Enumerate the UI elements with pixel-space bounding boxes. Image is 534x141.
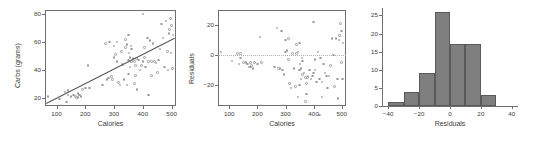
y-tick-label: 20 <box>19 94 41 101</box>
histogram-bar <box>419 73 434 106</box>
x-tick-label: −40 <box>374 110 402 117</box>
data-point <box>150 74 153 77</box>
data-point <box>340 61 343 64</box>
data-point <box>293 67 296 70</box>
data-point <box>339 22 342 25</box>
y-tick-label: 15 <box>358 48 378 55</box>
residual-histogram-panel: −40−20020400510152025 Residuals <box>350 0 534 141</box>
residuals-vs-calories-panel: 100200300400500−20020 Calories Residuals <box>178 0 350 141</box>
x-tick-label: 100 <box>215 110 243 117</box>
data-point <box>124 38 127 41</box>
data-point <box>160 23 163 26</box>
data-point <box>168 28 171 31</box>
data-point <box>333 85 336 88</box>
histogram-x-axis-title: Residuals <box>425 120 475 127</box>
histogram-bar <box>465 44 480 106</box>
y-tick-label: 5 <box>358 84 378 91</box>
y-tick-label: −20 <box>192 81 214 88</box>
data-point <box>332 54 335 57</box>
data-point <box>171 67 174 70</box>
y-tick-label: 0 <box>192 51 214 58</box>
x-tick-label: 200 <box>243 110 271 117</box>
data-point <box>169 17 172 20</box>
data-point <box>129 56 132 59</box>
data-point <box>65 101 68 104</box>
data-point <box>305 82 308 85</box>
data-point <box>114 53 117 56</box>
data-point <box>168 32 171 35</box>
y-tick <box>215 85 218 86</box>
data-point <box>260 61 263 64</box>
data-point <box>140 64 143 67</box>
x-tick-label: 100 <box>43 110 71 117</box>
data-point <box>124 46 127 49</box>
y-tick <box>379 70 382 71</box>
histogram-y-axis <box>382 8 383 106</box>
y-tick <box>42 70 45 71</box>
y-tick-label: 60 <box>19 38 41 45</box>
data-point <box>143 46 146 49</box>
data-point <box>273 66 276 69</box>
histogram-bar <box>450 44 465 106</box>
x-tick <box>257 106 258 109</box>
data-point <box>152 42 155 45</box>
data-point <box>239 57 242 60</box>
x-tick-label: 300 <box>100 110 128 117</box>
data-point <box>331 37 334 40</box>
data-point <box>111 78 114 81</box>
x-tick <box>419 106 420 109</box>
x-tick <box>450 106 451 109</box>
data-point <box>280 30 283 33</box>
y-tick <box>379 15 382 16</box>
x-tick-label: 40 <box>498 110 526 117</box>
y-tick-label: 40 <box>19 66 41 73</box>
x-tick <box>512 106 513 109</box>
x-tick <box>314 106 315 109</box>
data-point <box>329 64 332 67</box>
data-point <box>308 69 311 72</box>
x-tick <box>229 106 230 109</box>
data-point <box>287 37 290 40</box>
y-tick <box>379 106 382 107</box>
data-point <box>170 24 173 27</box>
data-point <box>134 74 137 77</box>
data-point <box>142 60 145 63</box>
data-point <box>318 78 321 81</box>
data-point <box>291 52 294 55</box>
x-tick-label: 400 <box>129 110 157 117</box>
residual-x-axis-title: Calories <box>260 120 304 127</box>
data-point <box>239 52 242 55</box>
y-tick <box>42 42 45 43</box>
data-point <box>104 42 107 45</box>
data-point <box>84 87 87 90</box>
y-tick <box>379 34 382 35</box>
x-tick <box>342 106 343 109</box>
y-tick <box>215 55 218 56</box>
data-point <box>304 100 307 103</box>
data-point <box>286 49 289 52</box>
data-point <box>143 56 146 59</box>
histogram-bar <box>481 95 496 106</box>
data-point <box>287 58 290 61</box>
histogram-bar <box>388 102 403 106</box>
x-tick <box>85 106 86 109</box>
data-point <box>80 95 83 98</box>
y-tick-label: 25 <box>358 11 378 18</box>
x-tick <box>172 106 173 109</box>
data-point <box>116 60 119 63</box>
x-tick <box>57 106 58 109</box>
scatter-x-axis-title: Calories <box>89 120 133 127</box>
scatter-y-axis-title: Carbs (grams) <box>14 43 21 88</box>
x-tick <box>388 106 389 109</box>
x-tick <box>114 106 115 109</box>
y-tick-label: 10 <box>358 66 378 73</box>
x-tick-label: 400 <box>300 110 328 117</box>
data-point <box>341 78 344 81</box>
x-tick-label: 300 <box>272 110 300 117</box>
carbs-vs-calories-panel: 10020030040050020406080 Calories Carbs (… <box>0 0 178 141</box>
y-tick-label: 20 <box>192 21 214 28</box>
data-point <box>300 67 303 70</box>
data-point <box>294 85 297 88</box>
x-tick-label: 200 <box>71 110 99 117</box>
y-tick <box>379 88 382 89</box>
